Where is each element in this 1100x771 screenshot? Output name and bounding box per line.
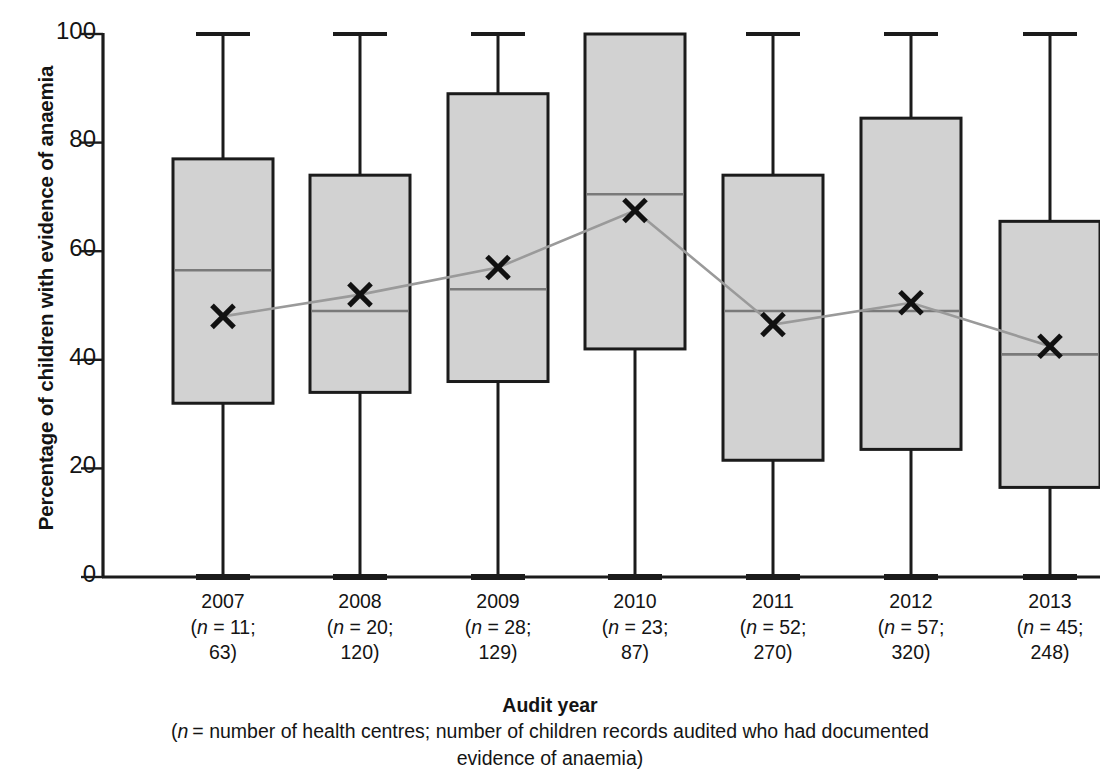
box-rect [448,94,548,382]
box-rect [173,159,273,403]
box-2013 [1000,34,1100,577]
x-axis-note: (n = number of health centres; number of… [0,718,1100,771]
x-tick-year: 2013 [960,589,1100,615]
y-axis-ticks [81,34,103,577]
box-rect [861,118,961,449]
box-2011 [723,34,823,577]
x-tick-label-2013: 2013(n = 45;248) [960,589,1100,666]
x-tick-n-line2: 248) [960,640,1100,666]
box-rect [585,34,685,349]
box-2007 [173,34,273,577]
x-axis-caption: Audit year (n = number of health centres… [0,692,1100,771]
box-2008 [310,34,410,577]
x-axis-tick-labels: 2007(n = 11;63)2008(n = 20;120)2009(n = … [0,589,1100,684]
x-axis-note-line1: (n = number of health centres; number of… [171,720,929,742]
box-2009 [448,34,548,577]
box-rect [310,175,410,392]
box-plot-series [173,34,1100,577]
x-tick-n-line1: (n = 45; [960,615,1100,641]
plot-area [0,0,1100,600]
x-axis-note-line2: evidence of anaemia) [457,747,643,769]
box-plot-figure: Percentage of children with evidence of … [0,0,1100,771]
x-axis-title: Audit year [0,692,1100,718]
box-2010 [585,34,685,577]
